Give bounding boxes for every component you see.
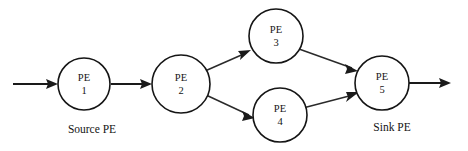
node-pe5-label-line1: PE — [376, 71, 388, 82]
edge-output-arrow — [409, 78, 451, 88]
caption-layer: Source PE Sink PE — [68, 121, 411, 135]
edge-pe3-pe5-head — [345, 64, 358, 74]
node-pe5-label-line2: 5 — [379, 84, 384, 95]
edge-pe1-pe2 — [111, 79, 152, 89]
edge-pe2-pe3-line — [205, 53, 246, 71]
node-pe3[interactable]: PE 3 — [249, 9, 303, 63]
sink-pe-caption: Sink PE — [373, 121, 410, 133]
node-pe1-circle[interactable] — [58, 58, 110, 110]
node-pe3-label-line1: PE — [270, 24, 282, 35]
dataflow-diagram: PE 1 PE 2 PE 3 PE 4 PE 5 — [0, 0, 468, 151]
node-pe3-label-line2: 3 — [273, 37, 278, 48]
node-pe2[interactable]: PE 2 — [152, 55, 210, 113]
edge-pe4-pe5-line — [303, 95, 353, 108]
node-pe3-circle[interactable] — [249, 9, 303, 63]
edge-pe4-pe5 — [303, 92, 359, 108]
node-pe2-label-line2: 2 — [178, 85, 183, 96]
node-pe1-label-line2: 1 — [81, 85, 86, 96]
diagram-canvas: PE 1 PE 2 PE 3 PE 4 PE 5 — [0, 0, 468, 151]
edge-pe2-pe3 — [205, 50, 251, 71]
node-pe2-label-line1: PE — [175, 72, 187, 83]
source-pe-caption: Source PE — [68, 123, 116, 135]
node-pe4-label-line2: 4 — [277, 116, 283, 127]
node-pe5-circle[interactable] — [355, 56, 409, 110]
node-pe4-circle[interactable] — [253, 88, 307, 142]
node-pe4-label-line1: PE — [274, 103, 286, 114]
node-pe1[interactable]: PE 1 — [58, 58, 110, 110]
node-pe5[interactable]: PE 5 — [355, 56, 409, 110]
edge-pe3-pe5-line — [299, 49, 352, 68]
node-pe4[interactable]: PE 4 — [253, 88, 307, 142]
edge-pe2-pe4 — [206, 95, 255, 121]
node-pe2-circle[interactable] — [152, 55, 210, 113]
node-pe1-label-line1: PE — [78, 72, 90, 83]
edge-input-arrow — [13, 79, 58, 89]
edge-pe3-pe5 — [299, 49, 358, 74]
